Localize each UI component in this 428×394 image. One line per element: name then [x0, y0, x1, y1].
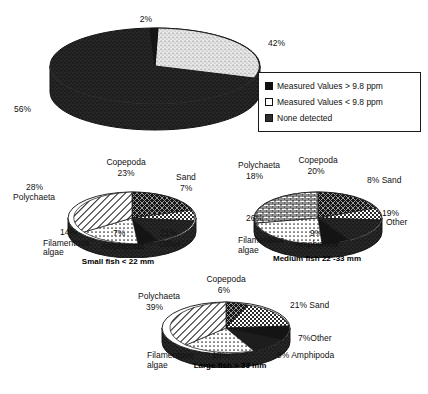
legend-swatch-dark-icon — [265, 82, 273, 90]
small-fish-label-sand: Sand — [176, 172, 196, 182]
medium-fish-pct-amphipoda: 9% — [310, 228, 322, 238]
large-fish-label-polychaeta: Polychaeta — [138, 291, 180, 301]
legend-label-none: None detected — [277, 113, 332, 123]
large-fish-pct-polychaeta: 39% — [146, 302, 163, 312]
small-fish-label-copepoda: Copepoda — [96, 157, 156, 167]
medium-fish-pct-copepoda: 20% — [294, 166, 338, 176]
small-fish-pct-other: 21% — [160, 228, 177, 238]
legend-swatch-mid-icon — [265, 114, 273, 122]
large-fish-label-copepoda: Copepoda — [196, 274, 256, 284]
legend-item-above: Measured Values > 9.8 ppm — [265, 78, 414, 94]
large-fish-label-algae-line1: Filamentous — [147, 350, 193, 360]
medium-fish-label-polychaeta: Polychaeta — [238, 160, 280, 170]
small-fish-label-polychaeta: Polychaeta — [13, 192, 55, 202]
top-pie-label-above: 42% — [268, 38, 285, 48]
medium-fish-label-algae-line1: Filamentous — [238, 235, 284, 245]
small-fish-label-other: Other — [159, 239, 180, 249]
large-fish-label-sand: 21% Sand — [290, 300, 329, 310]
legend-label-above: Measured Values > 9.8 ppm — [277, 81, 383, 91]
small-fish-pct-polychaeta: 28% — [26, 182, 43, 192]
medium-fish-label-sand: 8% Sand — [367, 175, 402, 185]
large-fish-pct-copepoda: 6% — [202, 285, 246, 295]
top-pie-label-below: 56% — [14, 104, 31, 114]
legend-item-none: None detected — [265, 110, 414, 126]
large-fish-pct-algae: 18% — [212, 350, 229, 360]
small-fish-pct-copepoda: 23% — [104, 168, 148, 178]
legend-swatch-light-icon — [265, 98, 273, 106]
small-fish-pct-sand: 7% — [180, 183, 192, 193]
medium-fish-caption: Medium fish 22 -33 mm — [252, 254, 382, 264]
large-fish-label-algae-line2: algae — [147, 360, 168, 370]
legend-label-below: Measured Values < 9.8 ppm — [277, 97, 383, 107]
large-fish-label-other: 7%Other — [298, 333, 332, 343]
large-fish-label-amphipoda: 9% Amphipoda — [277, 350, 334, 360]
legend: Measured Values > 9.8 ppm Measured Value… — [258, 72, 421, 132]
medium-fish-pct-algae: 26% — [246, 213, 263, 223]
medium-fish-label-other: Other — [386, 217, 407, 227]
small-fish-pct-algae: 14% — [60, 227, 77, 237]
small-fish-label-amphipoda: Amphipoda — [101, 241, 144, 251]
medium-fish-label-amphipoda: Amphipoda — [295, 239, 338, 249]
small-fish-label-algae-line2: algae — [43, 247, 64, 257]
small-fish-pct-amphipoda: 7% — [113, 228, 125, 238]
top-pie-label-none-detected: 2% — [126, 14, 166, 24]
medium-fish-pct-polychaeta: 18% — [246, 171, 263, 181]
legend-item-below: Measured Values < 9.8 ppm — [265, 94, 414, 110]
large-fish-caption: Large fish > 33 mm — [170, 361, 290, 371]
small-fish-caption: Small fish < 22 mm — [58, 257, 178, 267]
figure-canvas: 2% 42% 56% Measured Values > 9.8 ppm Mea… — [0, 0, 428, 394]
medium-fish-label-copepoda: Copepoda — [288, 155, 348, 165]
